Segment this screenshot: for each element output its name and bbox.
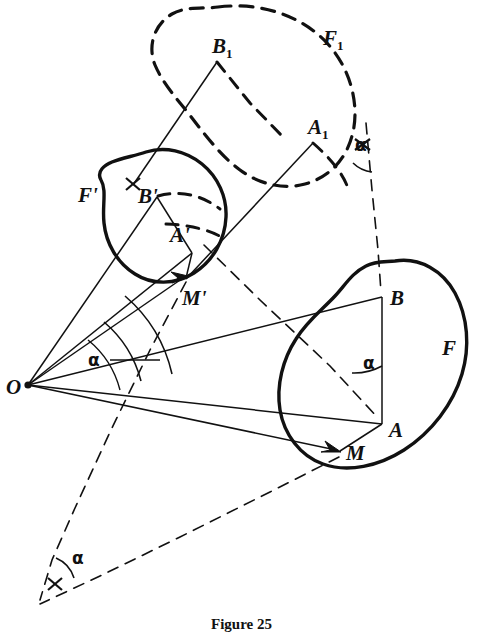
angle-arc-o-inner	[104, 322, 141, 381]
label-alpha-at-a: α	[363, 355, 375, 372]
figure-caption: Figure 25	[0, 616, 483, 633]
label-a1-base: A	[308, 115, 322, 139]
label-point-b-prime: B'	[138, 186, 158, 207]
label-alpha-at-o: α	[88, 352, 100, 369]
label-point-a-prime: A'	[170, 225, 190, 246]
label-point-o: O	[6, 377, 21, 398]
dashed-trace-aprime-to-a	[204, 245, 378, 418]
segment-a1-to-aprime-region	[186, 143, 313, 279]
label-alpha-top-right: α	[355, 137, 367, 154]
label-f1-sub: 1	[337, 38, 344, 53]
label-point-m: M	[346, 443, 365, 464]
label-point-b: B	[390, 288, 404, 309]
label-point-a: A	[389, 420, 403, 441]
dashed-chord-f-prime	[158, 194, 220, 209]
label-region-f-prime: F'	[78, 185, 98, 206]
label-point-m-prime: M'	[182, 288, 207, 309]
label-region-f1: F1	[323, 28, 344, 52]
dashed-arc-a1-to-f-top	[313, 143, 348, 188]
angle-arc-o-outer	[125, 296, 172, 374]
label-point-b1: B1	[212, 36, 233, 60]
dashed-path-bprime-to-b1	[217, 62, 286, 140]
segment-o-to-a	[28, 385, 382, 424]
segment-o-to-b	[28, 297, 382, 385]
label-b1-sub: 1	[226, 46, 233, 61]
label-region-f: F	[442, 338, 456, 359]
dashed-axis-from-m	[40, 457, 339, 604]
segment-o-to-m	[28, 385, 336, 450]
region-f-prime-outline	[100, 149, 227, 282]
point-marker-o	[24, 381, 31, 388]
arrowhead-m	[321, 441, 341, 452]
label-alpha-bottom-left: α	[72, 550, 84, 567]
label-point-a1: A1	[308, 117, 329, 141]
label-a1-sub: 1	[322, 127, 329, 142]
label-b1-base: B	[212, 34, 226, 58]
label-f1-base: F	[323, 26, 337, 50]
segment-o-to-m-prime	[28, 278, 183, 385]
